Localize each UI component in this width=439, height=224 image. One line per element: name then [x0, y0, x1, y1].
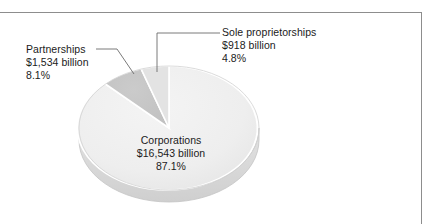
label-partnerships-percent: 8.1% — [26, 69, 89, 82]
figure-container: Sole proprietorships $918 billion 4.8% P… — [0, 0, 439, 224]
label-sole-proprietorships: Sole proprietorships $918 billion 4.8% — [222, 26, 316, 66]
label-sole-name: Sole proprietorships — [222, 26, 316, 39]
label-partnerships-name: Partnerships — [26, 43, 89, 56]
label-sole-percent: 4.8% — [222, 52, 316, 65]
pie-chart — [0, 0, 439, 224]
label-corporations-percent: 87.1% — [112, 160, 230, 173]
label-partnerships: Partnerships $1,534 billion 8.1% — [26, 43, 89, 83]
label-partnerships-value: $1,534 billion — [26, 56, 89, 69]
label-sole-value: $918 billion — [222, 39, 316, 52]
label-corporations: Corporations $16,543 billion 87.1% — [112, 134, 230, 174]
label-corporations-value: $16,543 billion — [112, 147, 230, 160]
leader-line-partnerships — [96, 49, 134, 74]
label-corporations-name: Corporations — [112, 134, 230, 147]
